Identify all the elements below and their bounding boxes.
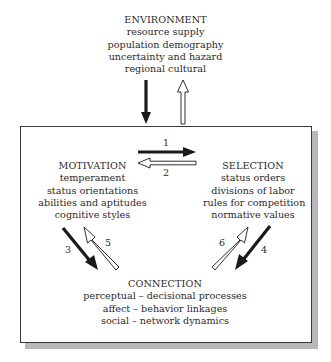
arrow-1-icon <box>138 147 196 157</box>
arrow-1-label: 1 <box>163 138 169 148</box>
arrow-3-label: 3 <box>65 245 71 255</box>
arrow-5-label: 5 <box>105 238 111 248</box>
arrow-env-down-icon <box>141 80 151 124</box>
arrow-2-label: 2 <box>163 168 169 178</box>
arrows-layer <box>0 0 331 362</box>
arrow-4-label: 4 <box>261 245 267 255</box>
arrow-6-label: 6 <box>219 238 225 248</box>
arrow-env-up-icon <box>178 80 189 124</box>
